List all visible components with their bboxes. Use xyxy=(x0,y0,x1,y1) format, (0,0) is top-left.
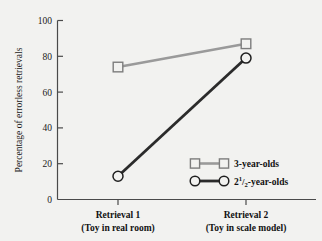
y-axis-title: Percentage of errorless retrievals xyxy=(14,47,24,172)
data-point-3-year-olds-retrieval-2 xyxy=(241,39,251,49)
data-point-two-and-half-year-olds-retrieval-2 xyxy=(241,53,251,63)
legend-marker-circle-left xyxy=(190,176,200,186)
x-category-sublabel-2: (Toy in scale model) xyxy=(206,223,287,234)
y-tick-label-80: 80 xyxy=(43,52,53,62)
y-tick-label-20: 20 xyxy=(43,159,53,169)
legend-label-suffix: -year-olds xyxy=(248,177,289,187)
x-category-sublabel-1: (Toy in real room) xyxy=(81,223,154,234)
x-category-label-2: Retrieval 2 xyxy=(224,210,269,220)
y-tick-label-60: 60 xyxy=(43,88,53,98)
x-category-label-1: Retrieval 1 xyxy=(96,210,141,220)
legend-marker-square-left xyxy=(190,159,199,168)
y-tick-label-100: 100 xyxy=(38,16,53,26)
y-tick-label-40: 40 xyxy=(43,123,53,133)
data-point-3-year-olds-retrieval-1 xyxy=(113,62,123,72)
data-point-two-and-half-year-olds-retrieval-1 xyxy=(113,171,123,181)
legend-marker-square-right xyxy=(219,159,228,168)
legend-marker-circle-right xyxy=(219,176,229,186)
legend-label-3-year-olds: 3-year-olds xyxy=(234,159,279,169)
chart-figure: 100 80 60 40 20 0 Percentage of errorles… xyxy=(0,0,322,241)
legend-label-two-and-half-year-olds: 21/2-year-olds xyxy=(234,175,288,188)
line-chart-svg: 100 80 60 40 20 0 Percentage of errorles… xyxy=(0,0,322,241)
y-tick-label-0: 0 xyxy=(47,195,52,205)
